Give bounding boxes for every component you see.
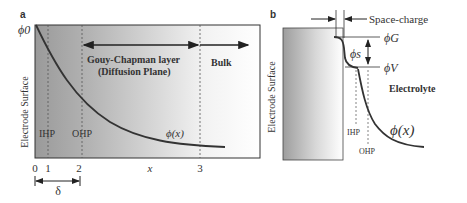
- x-tick-0: 0: [32, 162, 38, 174]
- x-tick-2: 2: [76, 162, 82, 174]
- ihp-label-b: IHP: [347, 128, 360, 137]
- ohp-label-b: OHP: [359, 147, 376, 156]
- x-tick-1: 1: [45, 162, 51, 174]
- phi0-label: ϕ0: [18, 23, 30, 37]
- panel-b-label: b: [270, 9, 276, 20]
- panel-a-label: a: [20, 9, 26, 20]
- phi-v-label: ϕV: [384, 61, 399, 75]
- electrolyte-label: Electrolyte: [389, 83, 436, 94]
- space-charge-label: Space-charge: [369, 13, 428, 25]
- x-tick-3: 3: [197, 162, 203, 174]
- panel-a: a ϕ0 Gouy-Chapman layer (Diffusion Plane…: [18, 9, 260, 198]
- phi-g-label: ϕG: [384, 31, 399, 45]
- gc-label-line1: Gouy-Chapman layer: [87, 54, 181, 65]
- electrode-block: [283, 28, 343, 160]
- ohp-label: OHP: [72, 128, 92, 139]
- panel-b: b Electrode Surface Space-charge ϕG ϕs ϕ…: [266, 9, 436, 160]
- bulk-label: Bulk: [211, 57, 232, 68]
- double-layer-diagram: a ϕ0 Gouy-Chapman layer (Diffusion Plane…: [0, 0, 467, 203]
- phi-s-label: ϕs: [350, 47, 361, 61]
- electrode-surface-label: Electrode Surface: [19, 76, 30, 148]
- ihp-label: IHP: [39, 128, 56, 139]
- curve-label-b: ϕ(x): [390, 122, 414, 139]
- gc-label-line2: (Diffusion Plane): [98, 66, 171, 78]
- electrode-surface-label-b: Electrode Surface: [266, 61, 277, 133]
- x-axis-label: x: [147, 162, 153, 174]
- curve-label: ϕ(x): [166, 127, 184, 140]
- delta-label: δ: [55, 184, 61, 198]
